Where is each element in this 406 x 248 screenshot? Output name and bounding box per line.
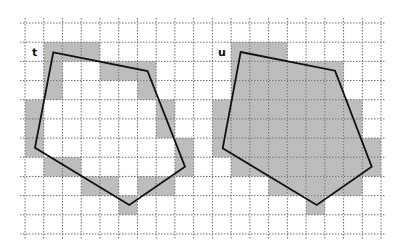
- shaded-cell-u: [287, 81, 306, 100]
- shaded-cells-layer: [25, 42, 381, 215]
- shaded-cell-u: [250, 138, 269, 157]
- shaded-cell-u: [250, 100, 269, 119]
- shaded-cell-t: [119, 61, 138, 80]
- shaded-cell-u: [250, 81, 269, 100]
- shaded-cell-u: [306, 100, 325, 119]
- figure-label-u: u: [218, 46, 226, 59]
- shaded-cell-u: [231, 119, 250, 138]
- shaded-cell-u: [306, 81, 325, 100]
- shaded-cell-u: [212, 138, 231, 157]
- shaded-cell-u: [287, 138, 306, 157]
- shaded-cell-u: [325, 119, 344, 138]
- shaded-cell-u: [250, 119, 269, 138]
- shaded-cell-u: [250, 42, 269, 61]
- shaded-cell-t: [62, 42, 81, 61]
- shaded-cell-t: [44, 61, 63, 80]
- shaded-cell-u: [287, 157, 306, 176]
- shaded-cell-u: [325, 157, 344, 176]
- shaded-cell-u: [269, 138, 288, 157]
- shaded-cell-u: [325, 138, 344, 157]
- shaded-cell-u: [269, 157, 288, 176]
- shaded-cell-u: [269, 119, 288, 138]
- shaded-cell-t: [25, 119, 44, 138]
- shaded-cell-u: [306, 138, 325, 157]
- shaded-cell-u: [269, 81, 288, 100]
- shaded-cell-u: [269, 61, 288, 80]
- shaded-cell-u: [306, 61, 325, 80]
- shaded-cell-u: [306, 157, 325, 176]
- shaded-cell-u: [306, 119, 325, 138]
- shaded-cell-u: [306, 176, 325, 195]
- shaded-cell-u: [287, 119, 306, 138]
- shaded-cell-u: [344, 138, 363, 157]
- pixel-grid-diagram: t u: [0, 0, 406, 248]
- shaded-cell-u: [231, 157, 250, 176]
- shaded-cell-u: [231, 100, 250, 119]
- shaded-cell-u: [231, 61, 250, 80]
- figure-label-t: t: [32, 46, 37, 59]
- shaded-cell-u: [269, 100, 288, 119]
- shaded-cell-t: [137, 81, 156, 100]
- shaded-cell-u: [344, 157, 363, 176]
- shaded-cell-u: [325, 100, 344, 119]
- shaded-cell-u: [250, 61, 269, 80]
- shaded-cell-u: [287, 100, 306, 119]
- shaded-cell-t: [44, 157, 63, 176]
